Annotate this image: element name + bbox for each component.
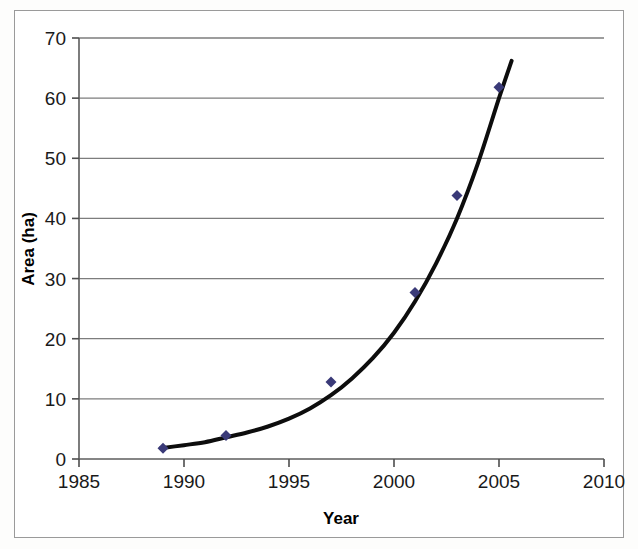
x-axis-ticks <box>79 459 604 467</box>
y-axis-tick-labels: 010203040506070 <box>45 28 66 470</box>
data-point-markers <box>158 82 505 454</box>
x-axis-tick-labels: 198519901995200020052010 <box>58 471 625 492</box>
data-point-marker <box>326 377 337 388</box>
x-tick-label: 1990 <box>163 471 205 492</box>
data-point-marker <box>158 443 169 454</box>
data-point-marker <box>452 190 463 201</box>
x-tick-label: 2010 <box>583 471 625 492</box>
gridlines-horizontal <box>79 38 604 399</box>
y-tick-label: 70 <box>45 28 66 49</box>
x-tick-label: 2005 <box>478 471 520 492</box>
y-tick-label: 50 <box>45 148 66 169</box>
y-axis-ticks <box>72 38 79 459</box>
x-tick-label: 2000 <box>373 471 415 492</box>
chart-plot-svg: 010203040506070 198519901995200020052010… <box>0 0 638 549</box>
y-tick-label: 40 <box>45 208 66 229</box>
x-tick-label: 1985 <box>58 471 100 492</box>
y-tick-label: 30 <box>45 269 66 290</box>
x-axis-title: Year <box>323 509 359 528</box>
y-tick-label: 60 <box>45 88 66 109</box>
y-tick-label: 0 <box>55 449 66 470</box>
y-axis-title: Area (ha) <box>19 212 38 286</box>
x-tick-label: 1995 <box>268 471 310 492</box>
y-tick-label: 20 <box>45 329 66 350</box>
y-tick-label: 10 <box>45 389 66 410</box>
trendline-curve <box>161 61 512 448</box>
chart-figure: 010203040506070 198519901995200020052010… <box>0 0 638 549</box>
